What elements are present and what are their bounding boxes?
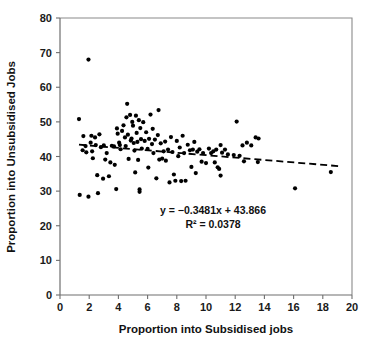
x-tick-label: 10 [200,301,212,313]
data-point [125,102,129,106]
x-tick-label: 16 [287,301,299,313]
data-point [189,165,193,169]
y-tick-label: 60 [40,81,52,93]
data-point [139,137,143,141]
x-tick-label: 18 [317,301,329,313]
regression-equation-label: y = −0.3481x + 43.866 [160,204,266,216]
data-point [160,156,164,160]
data-point [179,179,183,183]
y-axis-tick-labels: 01020304050607080 [40,12,52,301]
data-point [204,161,208,165]
data-point [133,170,137,174]
data-point [81,148,85,152]
data-point [176,154,180,158]
data-point [223,147,227,151]
data-point [217,167,221,171]
data-point [129,136,133,140]
data-point [89,141,93,145]
data-point [256,136,260,140]
data-point [90,149,94,153]
data-point [135,140,139,144]
y-axis-title: Proportion into Unsubsidised Jobs [5,61,17,253]
data-point [121,123,125,127]
y-tick-label: 80 [40,12,52,24]
data-point [81,134,85,138]
data-point [214,147,218,151]
data-point [181,134,185,138]
data-point [146,165,150,169]
y-tick-label: 0 [46,289,52,301]
data-point [172,172,176,176]
x-tick-label: 14 [258,301,271,313]
x-tick-label: 8 [174,301,180,313]
data-point [108,160,112,164]
scatter-chart-figure: 02468101214161820 01020304050607080 Prop… [0,0,371,343]
plot-frame [60,18,352,295]
data-point [167,180,171,184]
data-point [207,146,211,150]
data-point [101,177,105,181]
data-point [226,152,230,156]
data-point [164,159,168,163]
data-point [89,134,93,138]
data-point [186,143,190,147]
data-point [213,160,217,164]
data-point [96,191,100,195]
data-point [159,141,163,145]
x-axis-title: Proportion into Subsidised jobs [119,323,293,335]
data-point [86,57,90,61]
data-point [219,143,223,147]
data-point [86,195,90,199]
data-point [197,147,201,151]
data-point [113,163,117,167]
data-point [126,133,130,137]
data-point [148,113,152,117]
data-point [116,132,120,136]
data-point [114,187,118,191]
data-points-layer [77,57,333,198]
data-point [107,174,111,178]
data-point [77,117,81,121]
data-point [141,120,145,124]
data-point [249,143,253,147]
plot-border [60,18,352,295]
y-tick-label: 70 [40,47,52,59]
data-point [151,127,155,131]
data-point [219,173,223,177]
data-point [150,142,154,146]
data-point [156,133,160,137]
y-tick-label: 50 [40,116,52,128]
data-point [137,118,141,122]
data-point [127,157,131,161]
data-point [156,108,160,112]
data-point [151,151,155,155]
y-tick-label: 40 [40,151,52,163]
data-point [78,193,82,197]
data-point [245,141,249,145]
r-squared-label: R² = 0.0378 [185,218,240,230]
data-point [84,150,88,154]
data-point [118,147,122,151]
data-point [154,176,158,180]
data-point [120,129,124,133]
data-point [136,158,140,162]
data-point [166,147,170,151]
data-point [143,139,147,143]
x-tick-label: 20 [346,301,358,313]
data-point [163,140,167,144]
chart-canvas: 02468101214161820 01020304050607080 Prop… [0,0,371,343]
data-point [242,159,246,163]
data-point [103,158,107,162]
data-point [97,132,101,136]
data-point [130,120,134,124]
data-point [147,137,151,141]
data-point [183,179,187,183]
data-point [240,143,244,147]
data-point [105,151,109,155]
data-point [178,145,182,149]
data-point [134,114,138,118]
data-point [256,160,260,164]
data-point [137,190,141,194]
data-point [91,156,95,160]
data-point [235,119,239,123]
